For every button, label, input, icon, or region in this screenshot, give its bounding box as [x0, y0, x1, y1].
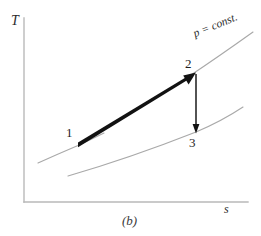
diagram-canvas [0, 0, 261, 236]
state-point-label-2: 2 [185, 57, 192, 70]
x-axis-label: s [224, 203, 229, 215]
state-point-label-1: 1 [66, 126, 73, 139]
isobar-curve-state3 [68, 107, 243, 176]
process-1-2-arrowhead [183, 73, 196, 85]
ts-diagram-figure: T s 1 2 3 p = const. (b) [0, 0, 261, 236]
process-1-2-shaft [78, 77, 188, 147]
state-point-label-3: 3 [189, 136, 196, 149]
figure-caption: (b) [122, 214, 137, 227]
y-axis-label: T [11, 14, 19, 28]
process-2-3-arrowhead [193, 124, 200, 134]
